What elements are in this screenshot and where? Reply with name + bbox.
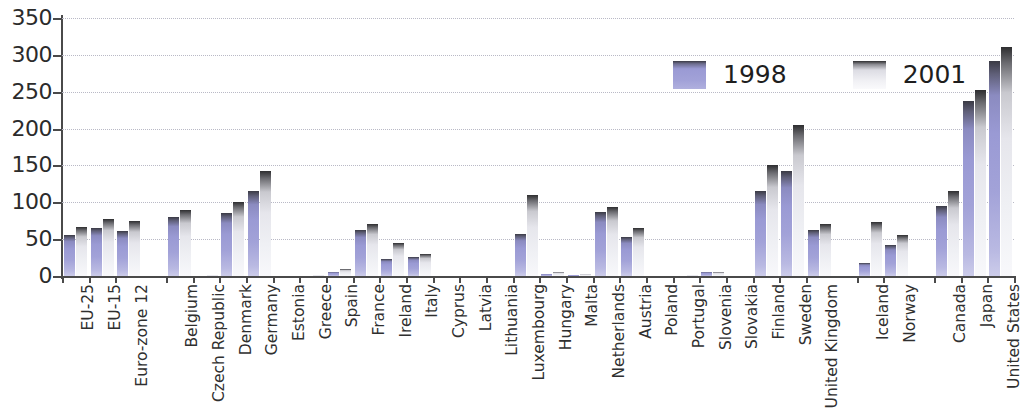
bar-1998 [355, 230, 366, 276]
y-axis-tick-label: 50 [25, 228, 52, 250]
x-axis-tick [273, 276, 275, 283]
x-axis-tick [987, 276, 989, 283]
bar-1998 [595, 212, 606, 276]
bar-1998 [248, 191, 259, 276]
bar-1998 [989, 61, 1000, 276]
bar-group [248, 18, 271, 276]
bar-2001 [767, 165, 778, 276]
y-axis-tick [53, 276, 62, 278]
bar-2001 [713, 272, 724, 276]
bar-groups [62, 18, 1014, 276]
bar-2001 [580, 274, 591, 276]
y-axis-tick-label: 300 [12, 44, 53, 66]
bar-2001 [948, 191, 959, 276]
legend-swatch-1998-icon [673, 61, 706, 89]
category-label: United States [1007, 284, 1023, 389]
bar-group [221, 18, 244, 276]
legend-label-2001: 2001 [903, 60, 967, 89]
category-label: Slovenia [719, 284, 735, 350]
category-label: Japan [980, 284, 996, 327]
bar-1998 [515, 234, 526, 276]
bar-1998 [781, 171, 792, 276]
bar-2001 [233, 202, 244, 276]
bar-group [728, 18, 751, 276]
y-axis-tick-label: 200 [12, 118, 53, 140]
bar-group [91, 18, 114, 276]
bar-2001 [553, 272, 564, 276]
bar-2001 [367, 224, 378, 276]
bar-group [328, 18, 351, 276]
bar-group [435, 18, 458, 276]
bar-group [408, 18, 431, 276]
bar-1998 [168, 217, 179, 276]
category-label: Austria [639, 284, 655, 339]
x-axis-tick [883, 276, 885, 283]
x-axis-tick [753, 276, 755, 283]
bar-2001 [129, 221, 140, 276]
category-label: Ireland [399, 284, 415, 338]
bar-group [885, 18, 908, 276]
x-axis-tick [593, 276, 595, 283]
bar-group [755, 18, 778, 276]
x-axis-tick [619, 276, 621, 283]
x-axis-tick [779, 276, 781, 283]
bar-2001 [207, 275, 218, 277]
bar-group [595, 18, 618, 276]
bar-group [168, 18, 191, 276]
bar-1998 [408, 257, 419, 276]
bar-1998 [117, 231, 128, 276]
bar-1998 [859, 263, 870, 276]
legend-label-1998: 1998 [723, 60, 787, 89]
bar-1998 [381, 259, 392, 276]
y-axis-tick [53, 165, 62, 167]
x-axis-tick [566, 276, 568, 283]
category-label: Greece [319, 284, 335, 339]
bar-2001 [687, 275, 698, 277]
category-label: Spain [345, 284, 361, 327]
x-axis-tick [486, 276, 488, 283]
x-axis-tick [62, 276, 64, 283]
x-axis-tick [857, 276, 859, 283]
bar-1998 [221, 213, 232, 276]
x-axis-tick [326, 276, 328, 283]
x-axis-tick [379, 276, 381, 283]
category-label: Netherlands [612, 284, 628, 378]
plot-area [62, 18, 1014, 276]
x-axis-tick [673, 276, 675, 283]
category-label: EU-15 [108, 284, 124, 330]
y-axis-tick-label: 350 [12, 7, 53, 29]
x-axis-tick [219, 276, 221, 283]
bar-group [461, 18, 484, 276]
bar-group [701, 18, 724, 276]
category-label: Slovakia [745, 284, 761, 349]
bar-2001 [340, 269, 351, 276]
bar-2001 [871, 222, 882, 276]
y-axis-tick-label: 150 [12, 154, 53, 176]
bar-group [568, 18, 591, 276]
legend-item-1998: 1998 [673, 60, 787, 89]
category-label: Luxembourg [532, 284, 548, 381]
x-axis-tick [806, 276, 808, 283]
chart-legend: 1998 2001 [673, 60, 966, 89]
bar-1998 [64, 235, 75, 276]
bar-2001 [527, 195, 538, 276]
category-label: Norway [903, 284, 919, 343]
category-labels: EU-25EU-15Euro-zone 12BelgiumCzech Repub… [62, 284, 1014, 410]
bar-1998 [963, 101, 974, 276]
bar-group [355, 18, 378, 276]
bar-2001 [393, 243, 404, 276]
y-axis-labels: 050100150200250300350 [0, 0, 52, 410]
bar-2001 [1001, 47, 1012, 276]
y-axis-tick [53, 18, 62, 20]
category-label: Finland [772, 284, 788, 339]
bar-group [936, 18, 959, 276]
x-axis-tick [353, 276, 355, 283]
x-axis-tick [961, 276, 963, 283]
category-label: Iceland [876, 284, 892, 340]
bar-group [675, 18, 698, 276]
bar-2001 [420, 254, 431, 276]
x-axis-tick [246, 276, 248, 283]
category-label: Cyprus [452, 284, 468, 338]
bar-group [117, 18, 140, 276]
bar-2001 [313, 275, 324, 277]
